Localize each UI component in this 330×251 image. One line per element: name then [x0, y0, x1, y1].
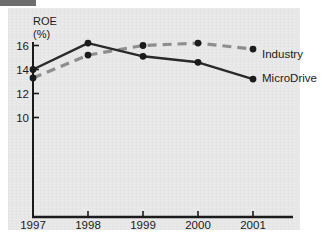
- y-axis-title-line2: (%): [33, 28, 50, 40]
- x-tick-label-1997: 1997: [20, 219, 46, 231]
- data-point: [85, 52, 92, 59]
- series-markers-industry: [30, 40, 257, 82]
- y-tick-label-14: 14: [16, 64, 29, 76]
- data-point: [140, 42, 147, 49]
- y-tick-label-16: 16: [16, 40, 29, 52]
- data-point: [250, 46, 257, 53]
- data-point: [30, 75, 37, 82]
- data-point: [250, 76, 257, 83]
- x-tick-label-1998: 1998: [75, 219, 101, 231]
- y-axis-title-line1: ROE: [33, 15, 57, 27]
- data-point: [195, 59, 202, 66]
- x-tick-label-2000: 2000: [185, 219, 211, 231]
- data-point: [85, 40, 92, 47]
- figure-container: ROE (%) 16 14 12 10 1997 1998 1999 2: [0, 0, 330, 251]
- series-label-microdrive: MicroDrive: [262, 72, 317, 84]
- data-point: [140, 53, 147, 60]
- roe-line-chart: ROE (%) 16 14 12 10 1997 1998 1999 2: [0, 0, 330, 251]
- y-tick-label-12: 12: [16, 88, 29, 100]
- y-tick-label-10: 10: [16, 112, 29, 124]
- x-tick-label-2001: 2001: [240, 219, 266, 231]
- x-tick-label-1999: 1999: [130, 219, 156, 231]
- series-label-industry: Industry: [262, 48, 303, 60]
- data-point: [30, 66, 37, 73]
- data-point: [195, 40, 202, 47]
